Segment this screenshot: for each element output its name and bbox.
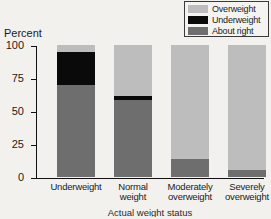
bar-underweight	[57, 45, 95, 177]
y-tick-75: 75	[31, 79, 37, 80]
legend-label-overweight: Overweight	[212, 5, 256, 14]
legend-swatch-underweight	[188, 16, 208, 24]
y-tick-label-25: 25	[12, 139, 24, 150]
legend-swatch-overweight	[188, 5, 208, 13]
bar-moderately-overweight	[171, 45, 209, 177]
y-axis-title: Percent	[4, 28, 42, 39]
bar-segment-about-right	[114, 100, 152, 177]
legend-label-underweight: Underweight	[212, 16, 260, 25]
plot-area: 0255075100	[36, 46, 264, 178]
y-tick-100: 100	[31, 46, 37, 47]
bar-severely-overweight	[228, 45, 266, 177]
legend-label-about-right: About right	[212, 27, 253, 36]
y-tick-label-50: 50	[12, 106, 24, 117]
x-label-line: overweight	[214, 192, 271, 202]
bar-segment-overweight	[114, 45, 152, 96]
y-tick-label-75: 75	[12, 73, 24, 84]
y-tick-25: 25	[31, 145, 37, 146]
x-axis-title: Actual weight status	[36, 208, 264, 217]
y-tick-label-100: 100	[6, 40, 24, 51]
chart-legend: Overweight Underweight About right	[184, 1, 269, 37]
x-axis-line	[36, 178, 264, 179]
bar-segment-overweight	[228, 45, 266, 170]
y-tick-label-0: 0	[18, 172, 24, 183]
x-label-severely-overweight: Severelyoverweight	[214, 182, 271, 202]
legend-item-about-right: About right	[188, 26, 266, 36]
bar-segment-about-right	[57, 85, 95, 177]
legend-item-overweight: Overweight	[188, 4, 266, 14]
stacked-bar-chart: Overweight Underweight About right Perce…	[0, 0, 271, 219]
bar-normal-weight	[114, 45, 152, 177]
legend-swatch-about-right	[188, 27, 208, 35]
bar-segment-underweight	[57, 52, 95, 85]
bar-segment-overweight	[171, 45, 209, 159]
bar-segment-about-right	[228, 170, 266, 177]
bar-segment-about-right	[171, 159, 209, 177]
x-axis-category-labels: UnderweightNormalweightModeratelyoverwei…	[36, 182, 264, 206]
y-tick-50: 50	[31, 112, 37, 113]
bar-segment-overweight	[57, 45, 95, 52]
y-tick-0: 0	[31, 178, 37, 179]
legend-item-underweight: Underweight	[188, 15, 266, 25]
